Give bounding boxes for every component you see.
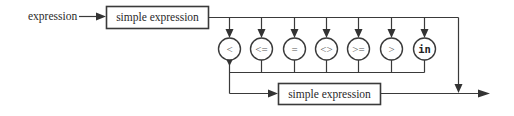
arrow-head-icon	[96, 13, 106, 21]
entry-label: expression	[28, 10, 77, 23]
svg-text:<=: <=	[255, 43, 267, 55]
svg-text:>=: >=	[352, 43, 364, 55]
arrow-head-icon	[268, 90, 278, 98]
svg-text:<: <	[226, 43, 232, 55]
syntax-diagram: expression simple expression < <= =	[0, 0, 514, 116]
svg-text:=: =	[291, 43, 297, 55]
svg-text:in: in	[418, 43, 431, 55]
simple-expression-label-1: simple expression	[116, 11, 199, 24]
svg-text:<>: <>	[320, 43, 332, 55]
operator-eq: =	[284, 38, 306, 60]
operator-drops	[226, 18, 429, 39]
operator-in: in	[414, 38, 436, 60]
exit-arrow-icon	[478, 90, 490, 98]
operator-ne: <>	[316, 38, 338, 60]
simple-expression-label-2: simple expression	[288, 88, 371, 101]
operator-gt: >	[381, 38, 403, 60]
operator-ge: >=	[348, 38, 370, 60]
arrow-down-icon	[455, 84, 463, 93]
operator-le: <=	[251, 38, 273, 60]
operator-lt: <	[219, 38, 241, 60]
svg-text:>: >	[388, 43, 394, 55]
